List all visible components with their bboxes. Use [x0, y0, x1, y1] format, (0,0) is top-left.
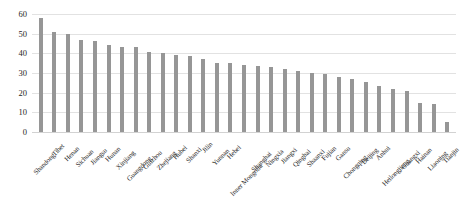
- bar-slot: [413, 14, 427, 132]
- bar-slot: [264, 14, 278, 132]
- bar-slot: [291, 14, 305, 132]
- bar[interactable]: [296, 71, 300, 132]
- bar[interactable]: [79, 40, 83, 132]
- bar[interactable]: [93, 41, 97, 132]
- bar[interactable]: [418, 103, 422, 133]
- bar[interactable]: [405, 91, 409, 132]
- bar-slot: [427, 14, 441, 132]
- x-axis-label: Shandong: [32, 152, 56, 176]
- y-axis: 60 50 40 30 20 10 0: [0, 14, 30, 132]
- bar[interactable]: [364, 82, 368, 132]
- bar-slot: [386, 14, 400, 132]
- bar-slot: [237, 14, 251, 132]
- bar[interactable]: [201, 59, 205, 132]
- x-axis-label: Anhui: [375, 145, 392, 162]
- bar-chart: 60 50 40 30 20 10 0 ShandongTibetHenanSi…: [0, 0, 464, 197]
- bar-slot: [332, 14, 346, 132]
- bar-slot: [102, 14, 116, 132]
- bar[interactable]: [39, 18, 43, 132]
- bar[interactable]: [256, 66, 260, 132]
- bar-slot: [197, 14, 211, 132]
- bar[interactable]: [120, 47, 124, 132]
- bar[interactable]: [283, 69, 287, 132]
- bar[interactable]: [269, 67, 273, 132]
- bar-slot: [346, 14, 360, 132]
- bar-slot: [115, 14, 129, 132]
- x-axis-label: Gansu: [335, 145, 352, 162]
- bar[interactable]: [188, 56, 192, 132]
- y-axis-tick: 60: [19, 10, 28, 19]
- bar-slot: [183, 14, 197, 132]
- bar[interactable]: [337, 77, 341, 132]
- bar-slot: [373, 14, 387, 132]
- bar-slot: [129, 14, 143, 132]
- y-axis-tick: 30: [19, 69, 28, 78]
- y-axis-tick: 0: [23, 128, 27, 137]
- bar[interactable]: [445, 122, 449, 132]
- bar-slot: [278, 14, 292, 132]
- bar[interactable]: [215, 63, 219, 132]
- bar-slot: [224, 14, 238, 132]
- y-axis-tick: 40: [19, 49, 28, 58]
- y-axis-tick: 10: [19, 108, 28, 117]
- bar[interactable]: [66, 34, 70, 132]
- bar[interactable]: [432, 104, 436, 132]
- bar-slot: [156, 14, 170, 132]
- bar[interactable]: [134, 47, 138, 132]
- bar-slot: [305, 14, 319, 132]
- bar-slot: [169, 14, 183, 132]
- bar-slot: [34, 14, 48, 132]
- bar[interactable]: [323, 74, 327, 132]
- bar-slot: [61, 14, 75, 132]
- bar-slot: [251, 14, 265, 132]
- bar[interactable]: [174, 55, 178, 132]
- bar-slot: [400, 14, 414, 132]
- bar-slot: [318, 14, 332, 132]
- bar[interactable]: [52, 32, 56, 132]
- bar[interactable]: [161, 53, 165, 132]
- bar[interactable]: [310, 73, 314, 132]
- bar[interactable]: [391, 89, 395, 132]
- bar[interactable]: [147, 52, 151, 132]
- bar[interactable]: [107, 45, 111, 132]
- bar-series: [32, 14, 456, 132]
- bar-slot: [75, 14, 89, 132]
- bar[interactable]: [350, 79, 354, 132]
- bar-slot: [48, 14, 62, 132]
- bar-slot: [142, 14, 156, 132]
- bar-slot: [440, 14, 454, 132]
- x-axis-label: Tianjin: [442, 147, 461, 166]
- bar[interactable]: [242, 65, 246, 132]
- plot-area: [32, 14, 456, 132]
- bar-slot: [210, 14, 224, 132]
- x-axis-label: Hebei: [227, 144, 243, 160]
- bar-slot: [88, 14, 102, 132]
- bar-slot: [359, 14, 373, 132]
- x-axis-label: Jilin: [202, 141, 215, 154]
- y-axis-tick: 20: [19, 88, 28, 97]
- y-axis-tick: 50: [19, 29, 28, 38]
- bar[interactable]: [377, 86, 381, 132]
- bar[interactable]: [228, 63, 232, 132]
- x-axis: ShandongTibetHenanSichuanJiangsuHunanXin…: [32, 133, 456, 197]
